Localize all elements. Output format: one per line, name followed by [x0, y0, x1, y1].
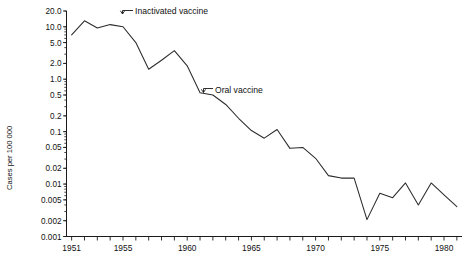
x-axis-tick-label: 1975: [370, 243, 389, 253]
y-axis-tick-label: 10.0: [46, 23, 62, 32]
case-rate-line: [72, 21, 457, 220]
y-axis-tick-label: 0.5: [50, 91, 62, 100]
annotation-oral-vaccine-label: Oral vaccine: [215, 85, 263, 95]
y-axis-tick-label: 2.0: [50, 59, 62, 68]
x-axis-ticks: [72, 237, 457, 241]
x-axis-tick-label: 1970: [306, 243, 325, 253]
y-axis-tick-label: 0.01: [46, 180, 62, 189]
annotation-inactivated-vaccine: Inactivated vaccine: [120, 6, 208, 16]
y-axis-tick-label: 0.2: [50, 112, 62, 121]
y-axis-tick-label: 0.05: [46, 143, 62, 152]
x-axis-tick-label: 1955: [114, 243, 133, 253]
y-axis-tick-label: 20.0: [46, 7, 62, 16]
y-axis-tick-label: 0.001: [41, 233, 62, 242]
x-axis-tick-label: 1951: [62, 243, 81, 253]
y-axis-tick-label: 0.1: [50, 128, 62, 137]
annotation-inactivated-vaccine-label: Inactivated vaccine: [135, 6, 208, 16]
y-axis-tick-label: 1.0: [50, 75, 62, 84]
chart-canvas: Cases per 100 000 20.010.05.02.01.00.50.…: [0, 0, 468, 261]
y-axis-tick-label: 0.02: [46, 164, 62, 173]
y-axis-tick-labels: 20.010.05.02.01.00.50.20.10.050.020.010.…: [41, 7, 62, 242]
polio-incidence-chart: Cases per 100 000 20.010.05.02.01.00.50.…: [0, 0, 468, 261]
y-axis-ticks: [63, 11, 67, 237]
annotation-oral-vaccine: Oral vaccine: [201, 85, 263, 95]
y-axis-tick-label: 0.005: [41, 196, 62, 205]
x-axis-tick-labels: 1951195519601965197019751980: [62, 243, 453, 253]
y-axis-tick-label: 0.002: [41, 217, 62, 226]
y-axis-title-text: Cases per 100 000: [5, 126, 14, 190]
y-axis-tick-label: 5.0: [50, 39, 62, 48]
x-axis-tick-label: 1965: [242, 243, 261, 253]
x-axis-tick-label: 1980: [435, 243, 454, 253]
x-axis-tick-label: 1960: [178, 243, 197, 253]
y-axis-title: Cases per 100 000: [5, 126, 14, 190]
